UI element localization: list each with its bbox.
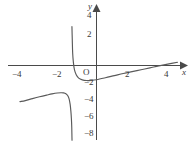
- y-axis: [93, 4, 101, 140]
- y-tick-label-neg2: −2: [84, 78, 93, 87]
- y-axis-arrow: [93, 4, 101, 12]
- x-tick-label-neg4: −4: [12, 70, 21, 79]
- y-tick-label-neg8: −8: [84, 129, 93, 138]
- function-curves: [20, 27, 178, 141]
- x-axis-label: x: [182, 68, 186, 77]
- x-tick-label-2: 2: [125, 70, 129, 79]
- origin-label: O: [83, 68, 90, 77]
- x-tick-label-neg2: −2: [52, 70, 61, 79]
- y-axis-label: y: [88, 2, 92, 11]
- y-tick-label-4: 4: [87, 11, 91, 20]
- y-tick-label-2: 2: [87, 30, 91, 39]
- y-tick-label-neg4: −4: [84, 95, 93, 104]
- x-tick-label-4: 4: [164, 70, 168, 79]
- y-tick-label-neg6: −6: [84, 112, 93, 121]
- graph-figure: −4 −2 2 4 4 2 −2 −4 −6 −8 O y x: [0, 0, 193, 145]
- curve-lower-left-branch: [20, 93, 72, 141]
